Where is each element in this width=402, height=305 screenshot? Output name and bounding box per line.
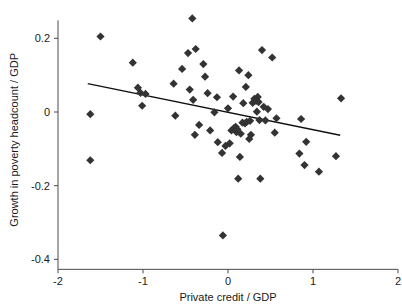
data-point-marker [186,85,194,93]
data-point-marker [178,65,186,73]
data-point-marker [315,168,323,176]
data-point-marker [213,93,221,101]
data-point-marker [236,153,244,161]
data-point-marker [96,32,104,40]
data-point-marker [332,152,340,160]
data-point-marker [86,110,94,118]
data-point-marker [302,138,310,146]
data-point-marker [300,161,308,169]
data-point-marker [229,92,237,100]
data-point-marker [189,96,197,104]
data-point-marker [86,156,94,164]
data-point-marker [204,89,212,97]
scatter-plot-figure: 0.20-0.2-0.4-2-1012 Private credit / GDP… [0,0,402,305]
data-point-marker [195,121,203,129]
data-point-marker [271,129,279,137]
x-tick-label: 2 [395,275,401,287]
data-point-marker [218,149,226,157]
data-point-marker [235,66,243,74]
data-point-marker [239,99,247,107]
data-point-marker [170,80,178,88]
data-point-marker [201,73,209,81]
data-point-marker [295,150,303,158]
data-point-marker [214,138,222,146]
data-point-marker [191,131,199,139]
y-tick-label: 0 [44,106,50,118]
data-point-marker [258,46,266,54]
data-point-marker [206,126,214,134]
x-tick-label: -2 [53,275,63,287]
data-point-marker [219,231,227,239]
data-point-marker [234,175,242,183]
data-point-marker [242,83,250,91]
data-point-marker [261,116,269,124]
y-tick-label: 0.2 [35,32,50,44]
data-point-marker [244,71,252,79]
data-point-marker [256,175,264,183]
data-point-marker [138,102,146,110]
x-tick-label: 0 [225,275,231,287]
x-tick-label: 1 [310,275,316,287]
data-point-marker [171,112,179,120]
x-tick-label: -1 [138,275,148,287]
data-point-marker [337,94,345,102]
data-points [86,14,345,239]
data-point-marker [192,45,200,53]
data-point-marker [184,49,192,57]
data-point-marker [199,60,207,68]
y-tick-label: -0.4 [31,253,50,265]
data-point-marker [129,59,137,67]
data-point-marker [297,115,305,123]
data-point-marker [253,108,261,116]
y-tick-label: -0.2 [31,180,50,192]
axes: 0.20-0.2-0.4-2-1012 [31,20,401,287]
data-point-marker [188,14,196,22]
data-point-marker [268,53,276,61]
y-axis-title: Growth in poverty headcount / GDP [8,53,20,227]
chart-canvas: 0.20-0.2-0.4-2-1012 Private credit / GDP… [0,0,402,305]
x-axis-title: Private credit / GDP [179,291,276,303]
